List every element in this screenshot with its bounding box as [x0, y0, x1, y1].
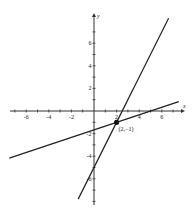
intersection-point: [114, 120, 119, 125]
x-tick-label: -2: [69, 114, 74, 120]
plot-svg: -6-4-2246-6-4-2246xy (2,−1): [0, 0, 193, 218]
axes: -6-4-2246-6-4-2246xy: [10, 13, 186, 205]
y-tick-label: 2: [89, 85, 92, 91]
point-label: (2,−1): [119, 126, 134, 133]
y-axis-arrow-icon: [92, 13, 96, 17]
y-axis-label: y: [96, 13, 100, 19]
coordinate-plane: -6-4-2246-6-4-2246xy (2,−1): [0, 0, 193, 218]
x-tick-label: 6: [160, 114, 163, 120]
y-tick-label: 6: [89, 40, 92, 46]
y-tick-label: 4: [89, 63, 92, 69]
x-axis-label: x: [182, 103, 186, 109]
x-tick-label: -6: [24, 114, 29, 120]
points: (2,−1): [114, 120, 133, 134]
x-tick-label: -4: [46, 114, 51, 120]
steep-line: [78, 18, 168, 199]
x-axis-arrow-icon: [181, 109, 185, 113]
y-tick-label: -4: [87, 153, 92, 159]
